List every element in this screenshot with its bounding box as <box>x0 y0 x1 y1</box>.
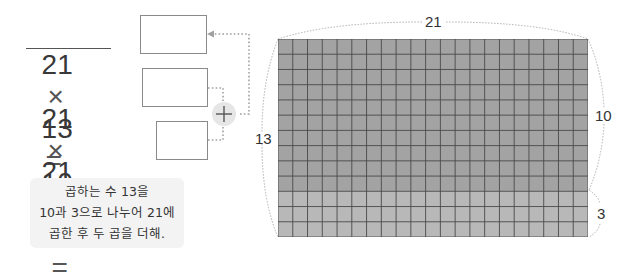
label-right-10: 10 <box>595 107 612 124</box>
label-right-3: 3 <box>597 205 605 222</box>
arrowhead-icon <box>207 31 214 38</box>
grid-lower-region <box>278 191 588 237</box>
eq3-equals: = <box>52 252 68 276</box>
label-left-13: 13 <box>255 130 272 147</box>
area-model-grid <box>278 39 588 237</box>
plus-icon <box>216 106 232 122</box>
note-line-1: 곱하는 수 13을 <box>30 181 184 202</box>
note-line-2: 10과 3으로 나누어 21에 <box>30 202 184 223</box>
label-top-21: 21 <box>425 13 442 30</box>
dotted-connectors <box>208 34 249 140</box>
hint-note: 곱하는 수 13을 10과 3으로 나누어 21에 곱한 후 두 곱을 더해. <box>30 178 184 248</box>
note-line-3: 곱한 후 두 곱을 더해. <box>30 223 184 244</box>
